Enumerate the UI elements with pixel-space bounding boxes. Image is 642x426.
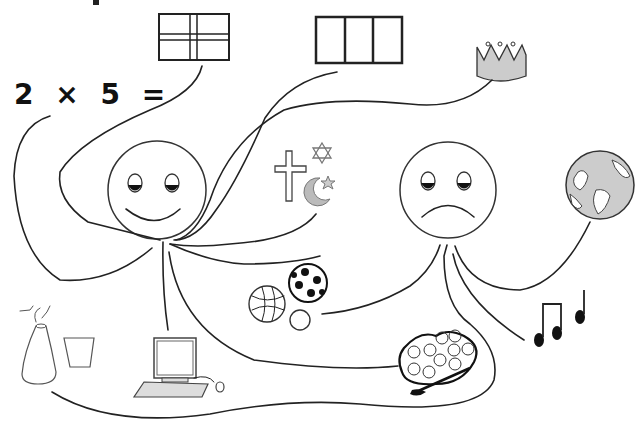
computer-icon (134, 338, 224, 397)
religious-symbols-icon (275, 143, 335, 206)
connector-lines (14, 66, 590, 418)
science-flask-icon (20, 306, 94, 384)
globe-icon (566, 151, 634, 219)
music-notes-icon (534, 290, 585, 347)
crown-icon (477, 42, 526, 81)
sports-balls-icon (249, 264, 327, 330)
flag-three-panel-icon (316, 17, 402, 63)
sad-face-icon (400, 142, 496, 238)
top-mark (93, 0, 99, 5)
paint-palette-icon (399, 330, 476, 396)
flag-cross-icon (159, 14, 229, 60)
connection-diagram (0, 0, 642, 426)
happy-face-icon (108, 141, 206, 239)
